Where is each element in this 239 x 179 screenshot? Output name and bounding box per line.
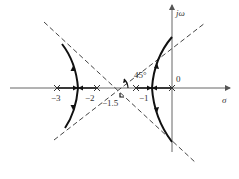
angle-label: 45° bbox=[134, 70, 147, 80]
pole-label: −1 bbox=[139, 93, 149, 103]
real-axis-label: σ bbox=[222, 95, 227, 105]
locus-branches bbox=[57, 37, 172, 142]
arrow-right-upper bbox=[154, 63, 159, 69]
pole-label: −2 bbox=[85, 93, 95, 103]
root-locus-diagram: −3 −2 −1 0 −1.5 45° jω σ bbox=[0, 0, 239, 179]
left-branch bbox=[62, 44, 78, 128]
imag-axis-label: jω bbox=[175, 8, 185, 18]
asymptote-line-1 bbox=[44, 22, 196, 163]
origin-label: 0 bbox=[176, 74, 181, 84]
centroid-label: −1.5 bbox=[102, 98, 119, 108]
arrow-right-lower bbox=[154, 107, 159, 113]
asymptotes bbox=[44, 22, 205, 163]
pole-label: −3 bbox=[51, 93, 61, 103]
